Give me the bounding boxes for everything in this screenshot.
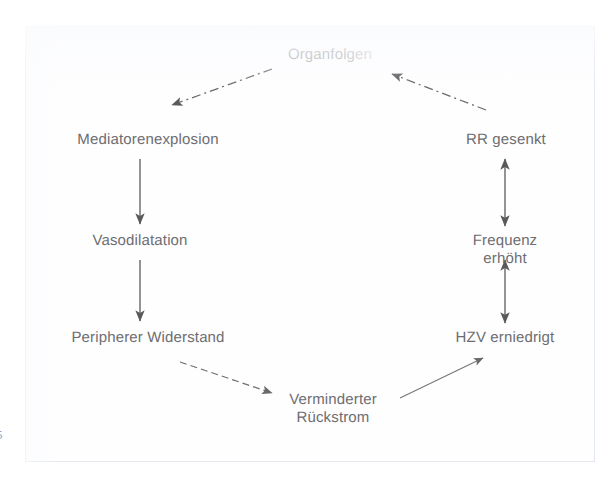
node-organfolgen: Organfolgen bbox=[288, 46, 372, 64]
edge-rr-gesenkt-to-organfolgen bbox=[392, 74, 486, 110]
node-rr-gesenkt: RR gesenkt bbox=[466, 131, 546, 149]
node-mediatorenexplosion: Mediatorenexplosion bbox=[77, 131, 218, 149]
edge-peripherer-widerstand-to-verminderter-rueckstrom bbox=[180, 362, 272, 393]
page-edge-folio-number: 5 bbox=[0, 427, 10, 443]
node-frequenz-erhoeht: Frequenz erhöht bbox=[452, 232, 559, 268]
edge-organfolgen-to-mediatorenexplosion bbox=[172, 69, 272, 105]
node-peripherer-widerstand: Peripherer Widerstand bbox=[71, 329, 224, 347]
node-verminderter-rueckstrom: Verminderter Rückstrom bbox=[289, 391, 377, 427]
scanned-figure-page: Organfolgen Mediatorenexplosion RR gesen… bbox=[0, 0, 612, 493]
node-vasodilatation: Vasodilatation bbox=[92, 232, 187, 250]
node-hzv-erniedrigt: HZV erniedrigt bbox=[456, 329, 555, 347]
edge-verminderter-rueckstrom-to-hzv-erniedrigt bbox=[400, 358, 483, 398]
